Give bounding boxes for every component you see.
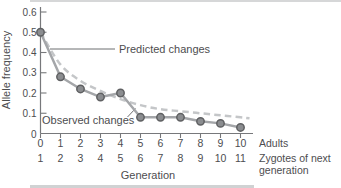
observed-data-point [177,114,184,121]
x-tick-label-adults: 3 [98,137,104,149]
y-tick-label: 0 [31,129,37,140]
observed-data-point [217,120,224,127]
x-tick-label-adults: 4 [118,137,124,149]
x-tick-label-adults: 5 [138,137,144,149]
adults-row-label: Adults [259,137,288,149]
figure: 0.10.20.30.40.50.60011223344556677889910… [0,0,341,188]
x-tick-label-adults: 2 [78,137,84,149]
x-tick-label-adults: 7 [178,137,184,149]
zygotes-row-label-line2: generation [259,164,309,176]
predicted-annotation-label: Predicted changes [119,43,211,55]
y-tick-label: 0.3 [23,67,37,78]
y-tick-label: 0.1 [23,108,37,119]
y-tick-label: 0.5 [23,27,37,38]
x-tick-label-zygotes: 10 [215,152,227,164]
allele-frequency-chart: 0.10.20.30.40.50.60011223344556677889910… [0,0,341,188]
x-tick-label-zygotes: 2 [58,152,64,164]
x-tick-label-adults: 10 [235,137,247,149]
x-tick-label-zygotes: 5 [118,152,124,164]
x-tick-label-adults: 0 [38,137,44,149]
observed-annotation-label: Observed changes [42,114,135,126]
x-tick-label-zygotes: 3 [78,152,84,164]
x-tick-label-zygotes: 1 [38,152,44,164]
observed-data-point [77,85,84,92]
y-tick-label: 0.6 [23,7,37,18]
observed-data-point [97,93,104,100]
observed-data-point [157,114,164,121]
y-axis-title: Allele frequency [0,30,12,109]
observed-data-point [237,124,244,131]
observed-data-point [57,73,64,80]
y-tick-label: 0.2 [23,88,37,99]
zygotes-row-label-line1: Zygotes of next [259,152,331,164]
observed-data-point [197,118,204,125]
x-tick-label-zygotes: 6 [138,152,144,164]
x-tick-label-zygotes: 4 [98,152,104,164]
x-tick-label-zygotes: 11 [235,152,246,164]
x-tick-label-zygotes: 7 [158,152,164,164]
figure-bottom-rule [30,185,254,188]
observed-data-point [137,114,144,121]
observed-data-point [117,89,124,96]
x-tick-label-adults: 6 [158,137,164,149]
x-tick-label-zygotes: 8 [178,152,184,164]
observed-data-point [37,29,44,36]
y-tick-label: 0.4 [23,47,37,58]
x-axis-title: Generation [121,169,175,181]
x-tick-label-adults: 8 [198,137,204,149]
x-tick-label-adults: 1 [58,137,64,149]
x-tick-label-zygotes: 9 [198,152,204,164]
x-tick-label-adults: 9 [218,137,224,149]
